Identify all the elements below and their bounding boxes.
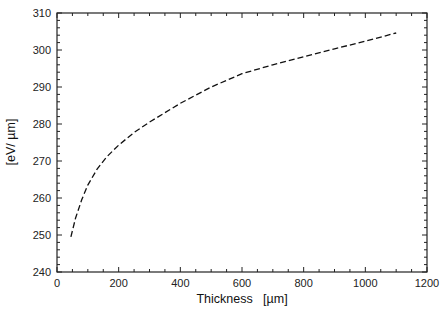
y-tick-label: 300 xyxy=(33,44,51,56)
y-tick-label: 290 xyxy=(33,81,51,93)
x-axis-title: Thickness [µm] xyxy=(196,292,287,306)
y-tick-label: 240 xyxy=(33,266,51,278)
x-tick-label: 200 xyxy=(109,277,127,289)
y-tick-label: 310 xyxy=(33,7,51,19)
x-tick-label: 0 xyxy=(54,277,60,289)
x-tick-label: 1000 xyxy=(353,277,377,289)
x-tick-label: 600 xyxy=(233,277,251,289)
y-tick-labels: 240250260270280290300310 xyxy=(33,7,51,278)
x-tick-label: 800 xyxy=(294,277,312,289)
y-tick-label: 250 xyxy=(33,229,51,241)
data-series-curve xyxy=(71,33,396,237)
y-tick-label: 280 xyxy=(33,118,51,130)
y-axis-title: [eV/ µm] xyxy=(4,119,18,166)
x-tick-label: 1200 xyxy=(415,277,439,289)
line-chart: 020040060080010001200 240250260270280290… xyxy=(0,0,446,318)
plot-frame xyxy=(57,13,427,272)
axis-ticks xyxy=(57,13,427,272)
x-tick-label: 400 xyxy=(171,277,189,289)
x-tick-labels: 020040060080010001200 xyxy=(54,277,439,289)
y-tick-label: 270 xyxy=(33,155,51,167)
y-tick-label: 260 xyxy=(33,192,51,204)
